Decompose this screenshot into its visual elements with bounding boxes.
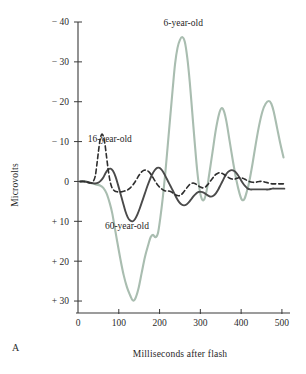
y-tick-label: + 10 xyxy=(52,217,69,227)
erg-figure-panel: − 40− 30− 20− 100+ 10+ 20+ 30 0100200300… xyxy=(0,0,306,374)
x-tick-label: 0 xyxy=(76,318,81,328)
x-axis-title: Milliseconds after flash xyxy=(133,349,228,359)
x-tick-label: 400 xyxy=(234,318,249,328)
y-axis-title: Microvolts xyxy=(10,163,20,207)
y-tick-label: − 20 xyxy=(52,97,69,107)
chart-traces xyxy=(80,37,284,301)
x-tick-label: 500 xyxy=(275,318,290,328)
y-tick-label: − 10 xyxy=(52,137,69,147)
panel-letter: A xyxy=(12,342,20,353)
y-tick-label: + 30 xyxy=(52,296,69,306)
x-tick-label: 200 xyxy=(152,318,167,328)
y-tick-label: + 20 xyxy=(52,257,69,267)
x-tick-label: 300 xyxy=(193,318,208,328)
y-tick-label: 0 xyxy=(64,177,69,187)
y-tick-label: − 40 xyxy=(52,17,69,27)
y-tick-label: − 30 xyxy=(52,57,69,67)
chart-canvas: − 40− 30− 20− 100+ 10+ 20+ 30 0100200300… xyxy=(0,0,306,374)
x-tick-label: 100 xyxy=(112,318,127,328)
annotation-60-year-old: 60-year-old xyxy=(105,221,149,231)
y-axis: − 40− 30− 20− 100+ 10+ 20+ 30 xyxy=(52,17,82,313)
annotation-6-year-old: 6-year-old xyxy=(164,18,204,28)
x-axis: 0100200300400500 xyxy=(76,309,290,328)
annotation-16-year-old: 16-year-old xyxy=(88,134,132,144)
